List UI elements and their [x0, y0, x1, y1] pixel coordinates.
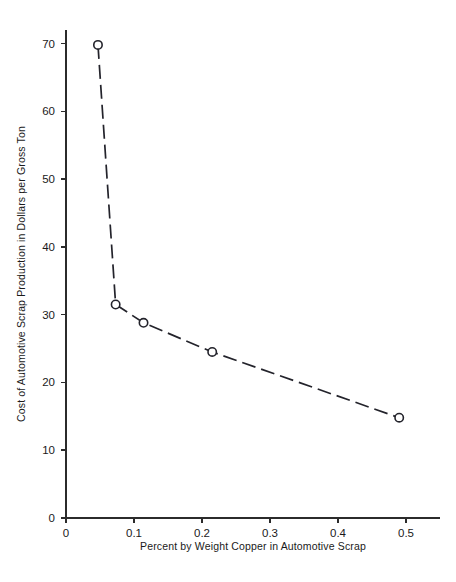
y-tick-label: 0: [49, 512, 55, 524]
data-point-marker: [208, 348, 216, 356]
data-line: [98, 45, 399, 418]
x-axis-title: Percent by Weight Copper in Automotive S…: [140, 540, 366, 552]
y-axis-ticks: 010203040506070: [42, 38, 66, 524]
y-tick-label: 20: [42, 376, 55, 388]
x-tick-label: 0.4: [330, 527, 347, 539]
line-chart: 010203040506070 00.10.20.30.40.5 Percent…: [0, 0, 456, 582]
y-tick-label: 30: [42, 309, 55, 321]
data-point-marker: [111, 300, 119, 308]
y-tick-label: 40: [42, 241, 55, 253]
data-point-marker: [395, 413, 403, 421]
chart-figure: 010203040506070 00.10.20.30.40.5 Percent…: [0, 0, 456, 582]
x-tick-label: 0.1: [126, 527, 142, 539]
y-axis-title: Cost of Automotive Scrap Production in D…: [15, 126, 27, 422]
y-tick-label: 60: [42, 105, 55, 117]
data-point-marker: [94, 41, 102, 49]
x-tick-label: 0.5: [398, 527, 414, 539]
y-tick-label: 10: [42, 444, 55, 456]
x-axis-ticks: 00.10.20.30.40.5: [63, 518, 414, 539]
y-tick-label: 70: [42, 38, 55, 50]
data-series-group: [94, 41, 404, 422]
x-tick-label: 0.2: [194, 527, 210, 539]
y-tick-label: 50: [42, 173, 55, 185]
axes-group: [66, 30, 440, 518]
data-point-marker: [139, 319, 147, 327]
x-tick-label: 0.3: [262, 527, 278, 539]
x-tick-label: 0: [63, 527, 69, 539]
